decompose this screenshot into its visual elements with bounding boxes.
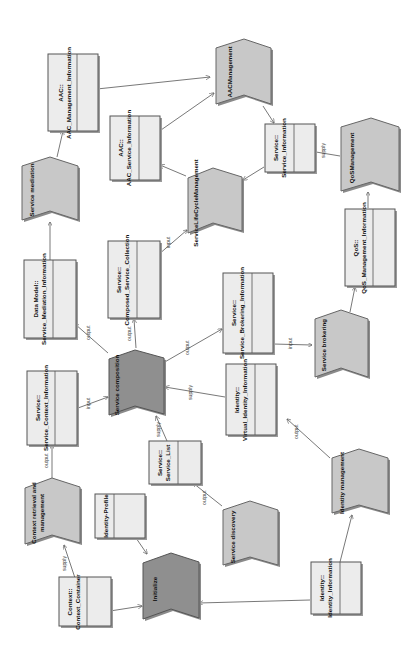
- activity-label-line1: Context retrieval and: [30, 482, 37, 544]
- activity-label: ServiceLifeCycleManagement: [192, 159, 199, 246]
- activity-service-mediation[interactable]: Service mediation: [22, 157, 80, 222]
- class-name: Service_Context_Information: [42, 365, 49, 451]
- edge-labels: supply input output output output input …: [43, 143, 326, 571]
- edge-label-output: output: [126, 326, 132, 341]
- activity-label: Service composition: [113, 355, 120, 416]
- class-name: Identity_Information: [326, 558, 333, 618]
- activity-service-brokering[interactable]: Service brokering: [315, 310, 370, 379]
- edge-label-supply: supply: [61, 556, 67, 571]
- class-data-model-service-mediation-information[interactable]: Data Model:: Service_Mediation_Informati…: [24, 253, 78, 345]
- class-stereotype: Service::: [115, 267, 122, 293]
- class-aac-management-information[interactable]: AAC:: AAC_Management_Information: [48, 47, 100, 139]
- class-composed-service-collection[interactable]: Service:: Composed_Service_Collection: [108, 234, 162, 325]
- class-name: Service_List: [164, 445, 171, 481]
- class-name: QoS_Management_Information: [360, 202, 367, 294]
- activity-label: Service brokering: [320, 319, 327, 371]
- activity-label: AACManagement: [226, 46, 233, 97]
- class-service-brokering-information[interactable]: Service:: Service_Brokering_Information: [223, 267, 275, 359]
- activity-context-retrieval[interactable]: Context retrieval and management: [25, 478, 82, 546]
- edge-label-output: output: [201, 490, 207, 505]
- class-name: AAC_Management_Information: [65, 47, 72, 139]
- edge-label-output: output: [85, 325, 91, 340]
- class-stereotype: Service::: [34, 395, 41, 421]
- class-name: Composed_Service_Collection: [123, 234, 130, 325]
- class-stereotype: QoS::: [352, 240, 359, 257]
- edge-label-supply: supply: [187, 385, 193, 400]
- class-qos-management-information[interactable]: QoS:: QoS_Management_Information: [345, 202, 397, 294]
- class-stereotype: Data Model::: [32, 280, 39, 317]
- class-stereotype: Identity::: [233, 387, 240, 413]
- class-aac-service-information[interactable]: AAC:: AAC_Service_Information: [110, 110, 162, 187]
- class-identity-profile[interactable]: Identity-Profile: [95, 494, 147, 540]
- class-service-context-information[interactable]: Service:: Service_Context_Information: [27, 365, 79, 451]
- activity-label: Service discovery: [229, 510, 236, 563]
- activity-label: QoSManagement: [348, 133, 355, 184]
- activity-label: Initialize: [151, 576, 158, 601]
- class-stereotype: Service::: [156, 450, 163, 476]
- class-name: Service_Mediation_Information: [40, 253, 47, 345]
- edge-label-input: input: [165, 236, 171, 248]
- class-stereotype: Service::: [272, 135, 279, 161]
- activity-qos-management[interactable]: QoSManagement: [341, 118, 401, 193]
- class-context-container[interactable]: Context:: Context_Container: [59, 574, 113, 630]
- edge-label-output: output: [184, 340, 190, 355]
- class-name: AAC_Service_Information: [125, 110, 132, 187]
- class-name: Service_Brokering_Information: [238, 267, 245, 359]
- activity-aac-management[interactable]: AACManagement: [216, 39, 273, 106]
- class-service-list[interactable]: Service:: Service_List: [149, 441, 203, 486]
- class-stereotype: Identity::: [318, 575, 325, 601]
- activity-label: Identity management: [338, 452, 345, 514]
- class-stereotype: Service::: [230, 300, 237, 326]
- class-stereotype: Context::: [66, 588, 73, 615]
- activity-service-discovery[interactable]: Service discovery: [223, 501, 280, 567]
- edge-label-output: output: [293, 424, 299, 439]
- edge-label-supply: supply: [155, 422, 161, 437]
- edge-label-input: input: [287, 337, 293, 349]
- edge-label-supply: supply: [320, 143, 326, 158]
- diagram-canvas: supply input output output output input …: [0, 0, 417, 657]
- class-identity-information[interactable]: Identity:: Identity_Information: [311, 558, 363, 618]
- activity-service-composition[interactable]: Service composition: [109, 350, 166, 417]
- edge-label-output: output: [43, 453, 49, 468]
- class-stereotype: AAC::: [57, 84, 64, 102]
- class-name: Service_Information: [280, 118, 287, 178]
- class-service-information[interactable]: Service:: Service_Information: [265, 118, 317, 178]
- class-name: Context_Container: [74, 574, 81, 630]
- class-name: Virtual_Identity_Information: [241, 359, 248, 441]
- class-name: Identity-Profile: [102, 494, 109, 538]
- activity-label: Service mediation: [28, 163, 35, 216]
- activity-label-line2: management: [38, 494, 45, 532]
- class-stereotype: AAC::: [117, 139, 124, 157]
- class-virtual-identity-information[interactable]: Identity:: Virtual_Identity_Information: [226, 359, 278, 441]
- edge-label-input: input: [85, 397, 91, 409]
- activity-identity-management[interactable]: Identity management: [332, 449, 390, 515]
- activity-service-lifecycle-management[interactable]: ServiceLifeCycleManagement: [188, 159, 244, 246]
- activity-initialize[interactable]: Initialize: [143, 553, 201, 621]
